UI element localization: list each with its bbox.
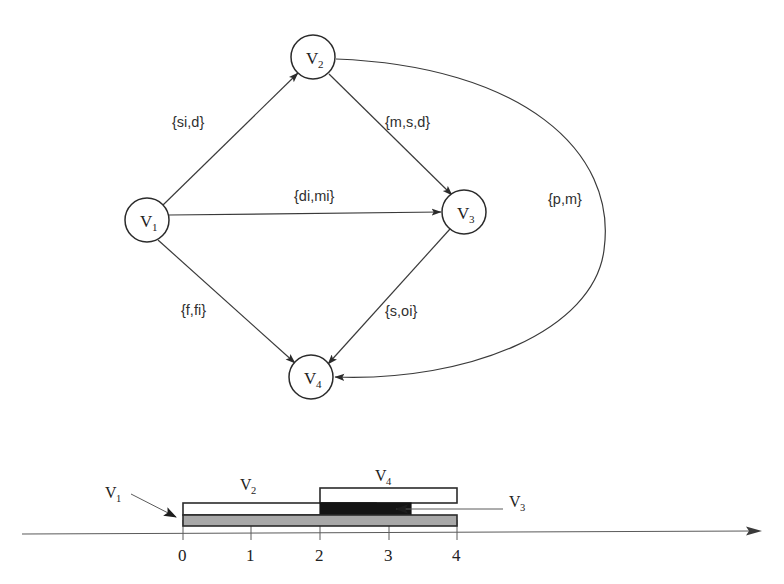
node-v2-sub: 2 (318, 58, 324, 70)
bar-label-v4-group: V 4 (375, 467, 392, 487)
node-v3-sub: 3 (469, 213, 475, 225)
figure-canvas: V 1 V 2 V 3 V 4 {si,d} {m,s,d} {di (0, 0, 784, 584)
graph-nodes: V 1 V 2 V 3 V 4 (125, 35, 486, 399)
edge-v3-v4 (328, 229, 450, 364)
node-v3[interactable]: V 3 (442, 190, 486, 234)
edge-v1-v2 (163, 73, 298, 205)
bar-sub-v3: 3 (520, 502, 525, 513)
timeline-axis (22, 531, 752, 534)
timeline: 0 1 2 3 4 V 2 (22, 467, 762, 565)
interval-bar-v1[interactable] (183, 515, 457, 526)
edge-v1-v4 (158, 240, 295, 363)
graph-edges (158, 59, 605, 377)
bar-sub-v4: 4 (386, 476, 392, 487)
tick-label-1: 1 (246, 546, 255, 565)
node-v2[interactable]: V 2 (291, 35, 335, 79)
node-v4[interactable]: V 4 (289, 355, 333, 399)
edge-v1-v3 (169, 212, 441, 215)
edge-label-v2-v4: {p,m} (548, 191, 582, 207)
interval-bar-v4[interactable] (320, 488, 457, 503)
edge-label-v3-v4: {s,oi} (385, 303, 417, 319)
bar-label-v1-group: V 1 (105, 484, 121, 504)
tick-label-4: 4 (452, 546, 461, 565)
edge-label-v1-v4: {f,fi} (181, 302, 206, 318)
callout-line-v1 (131, 494, 176, 517)
node-v4-sub: 4 (316, 378, 322, 390)
bar-sub-v2: 2 (251, 485, 256, 496)
edge-label-v2-v3: {m,s,d} (385, 114, 430, 130)
tick-label-2: 2 (315, 546, 324, 565)
node-v1[interactable]: V 1 (125, 198, 169, 242)
node-v1-sub: 1 (152, 221, 158, 233)
bar-label-v2-group: V 2 (240, 476, 256, 496)
timeline-tick-labels: 0 1 2 3 4 (178, 546, 461, 565)
tick-label-3: 3 (384, 546, 393, 565)
edge-label-v1-v2: {si,d} (172, 114, 204, 130)
bar-sub-v1: 1 (116, 493, 121, 504)
tick-label-0: 0 (178, 546, 187, 565)
bar-label-v3-group: V 3 (509, 493, 525, 513)
graph-edge-labels: {si,d} {m,s,d} {di,mi} {f,fi} {s,oi} {p,… (172, 114, 582, 319)
timeline-intervals (183, 488, 457, 526)
edge-label-v1-v3: {di,mi} (294, 188, 334, 204)
edge-v2-v3 (329, 74, 452, 195)
figure-svg: V 1 V 2 V 3 V 4 {si,d} {m,s,d} {di (0, 0, 784, 584)
